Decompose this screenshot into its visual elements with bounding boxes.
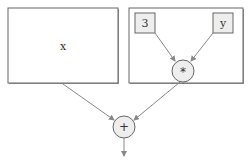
multiply-node: * [172, 60, 194, 82]
y-variable-box: y [213, 13, 233, 33]
edge-mul-to-add [134, 82, 180, 120]
constant-3-box: 3 [135, 13, 155, 33]
x-operand-box: x [8, 8, 119, 84]
expression-tree-diagram: x 3 y * + [0, 0, 251, 162]
edge-x-to-add [63, 84, 114, 120]
constant-3-label: 3 [142, 17, 149, 30]
x-label: x [60, 40, 67, 53]
add-node: + [113, 116, 135, 138]
multiply-label: * [180, 65, 186, 79]
y-label: y [219, 17, 227, 30]
add-label: + [119, 120, 129, 134]
